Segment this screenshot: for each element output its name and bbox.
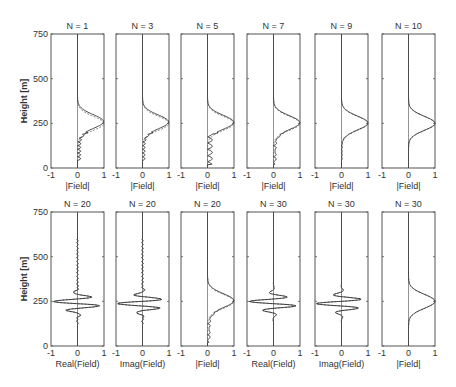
- subplot-title: N = 1: [67, 21, 89, 31]
- x-axis-label: Imag(Field): [319, 359, 365, 369]
- subplot-title: N = 20: [64, 199, 91, 209]
- y-tick-label: 250: [33, 296, 48, 306]
- x-tick-label: 0: [140, 170, 145, 180]
- x-tick-label: 1: [166, 170, 171, 180]
- x-tick-label: -1: [311, 348, 319, 358]
- subplot-7: N = 20-101Real(Field)0250500750Height [m…: [19, 199, 107, 369]
- x-tick-label: 0: [75, 170, 80, 180]
- x-tick-label: 0: [271, 170, 276, 180]
- x-tick-label: 0: [406, 170, 411, 180]
- subplot-title: N = 30: [328, 199, 355, 209]
- x-tick-label: 1: [365, 348, 370, 358]
- x-tick-label: -1: [243, 170, 251, 180]
- subplot-title: N = 10: [395, 21, 422, 31]
- x-tick-label: -1: [378, 170, 386, 180]
- x-tick-label: 1: [101, 170, 106, 180]
- y-tick-label: 0: [43, 163, 48, 173]
- x-tick-label: 1: [297, 170, 302, 180]
- subplot-12: N = 30-101|Field|: [378, 199, 438, 369]
- x-tick-label: 1: [365, 170, 370, 180]
- x-axis-label: Real(Field): [251, 359, 295, 369]
- x-tick-label: 1: [231, 170, 236, 180]
- subplot-5: N = 9-101|Field|: [311, 21, 371, 191]
- x-tick-label: 0: [205, 170, 210, 180]
- x-axis-label: |Field|: [130, 181, 154, 191]
- x-axis-label: Real(Field): [55, 359, 99, 369]
- subplot-9: N = 20-101|Field|: [177, 199, 237, 369]
- x-tick-label: 1: [432, 348, 437, 358]
- x-tick-label: 0: [271, 348, 276, 358]
- subplot-2: N = 3-101|Field|: [112, 21, 172, 191]
- x-tick-label: -1: [378, 348, 386, 358]
- x-axis-label: |Field|: [195, 359, 219, 369]
- x-axis-label: |Field|: [261, 181, 285, 191]
- y-tick-label: 500: [33, 252, 48, 262]
- x-tick-label: 1: [166, 348, 171, 358]
- y-tick-label: 250: [33, 118, 48, 128]
- subplot-4: N = 7-101|Field|: [243, 21, 303, 191]
- y-tick-label: 750: [33, 207, 48, 217]
- subplot-8: N = 20-101Imag(Field): [112, 199, 172, 369]
- x-tick-label: -1: [112, 348, 120, 358]
- x-tick-label: 1: [101, 348, 106, 358]
- y-axis-label: Height [m]: [19, 257, 29, 302]
- x-axis-label: |Field|: [396, 181, 420, 191]
- x-tick-label: -1: [311, 170, 319, 180]
- y-tick-label: 500: [33, 74, 48, 84]
- y-axis-label: Height [m]: [19, 79, 29, 124]
- x-tick-label: -1: [177, 170, 185, 180]
- subplot-1: N = 1-101|Field|0250500750Height [m]: [19, 21, 107, 191]
- y-tick-label: 750: [33, 29, 48, 39]
- subplot-title: N = 30: [395, 199, 422, 209]
- x-tick-label: -1: [47, 170, 55, 180]
- subplot-title: N = 30: [260, 199, 287, 209]
- x-axis-label: |Field|: [65, 181, 89, 191]
- x-tick-label: 1: [432, 170, 437, 180]
- y-tick-label: 0: [43, 341, 48, 351]
- x-tick-label: -1: [177, 348, 185, 358]
- figure: N = 1-101|Field|0250500750Height [m]N = …: [0, 0, 456, 387]
- subplot-title: N = 9: [331, 21, 353, 31]
- x-tick-label: 0: [339, 170, 344, 180]
- subplot-11: N = 30-101Imag(Field): [311, 199, 371, 369]
- x-tick-label: 1: [231, 348, 236, 358]
- x-tick-label: -1: [112, 170, 120, 180]
- subplot-title: N = 5: [197, 21, 219, 31]
- subplot-3: N = 5-101|Field|: [177, 21, 237, 191]
- x-axis-label: |Field|: [195, 181, 219, 191]
- x-tick-label: 0: [205, 348, 210, 358]
- subplot-10: N = 30-101Real(Field): [243, 199, 303, 369]
- subplot-title: N = 20: [194, 199, 221, 209]
- x-tick-label: -1: [47, 348, 55, 358]
- x-tick-label: -1: [243, 348, 251, 358]
- x-axis-label: |Field|: [396, 359, 420, 369]
- x-tick-label: 1: [297, 348, 302, 358]
- x-tick-label: 0: [140, 348, 145, 358]
- x-tick-label: 0: [75, 348, 80, 358]
- subplot-title: N = 20: [129, 199, 156, 209]
- x-tick-label: 0: [406, 348, 411, 358]
- subplot-6: N = 10-101|Field|: [378, 21, 438, 191]
- x-axis-label: |Field|: [329, 181, 353, 191]
- x-axis-label: Imag(Field): [120, 359, 166, 369]
- subplot-title: N = 7: [263, 21, 285, 31]
- subplot-title: N = 3: [132, 21, 154, 31]
- x-tick-label: 0: [339, 348, 344, 358]
